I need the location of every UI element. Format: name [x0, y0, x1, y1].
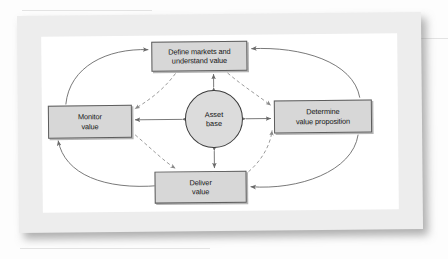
paper-sheet: Define markets and understand value Dete…: [17, 12, 423, 233]
dash-deliver-to-determine: [248, 131, 272, 172]
arc-monitor-to-define: [65, 50, 149, 105]
dash-monitor-to-deliver: [135, 134, 175, 168]
figure-area: Define markets and understand value Dete…: [41, 33, 399, 212]
dash-define-to-monitor: [135, 73, 176, 108]
node-deliver-value-label: Deliver value: [189, 178, 211, 196]
scanned-page-background: Define markets and understand value Dete…: [0, 0, 448, 259]
node-determine-value[interactable]: Determine value proposition: [274, 100, 372, 134]
arc-deliver-to-monitor: [58, 140, 158, 188]
node-asset-base-label: Asset base: [205, 110, 224, 128]
node-define-markets-label: Define markets and understand value: [168, 47, 230, 66]
node-determine-value-label: Determine value proposition: [296, 107, 350, 126]
scan-artifact-top: [22, 10, 152, 11]
node-define-markets[interactable]: Define markets and understand value: [151, 41, 247, 72]
node-monitor-value-label: Monitor value: [78, 113, 102, 131]
node-deliver-value[interactable]: Deliver value: [154, 171, 246, 204]
node-asset-base[interactable]: Asset base: [185, 90, 244, 149]
arc-determine-to-deliver: [250, 135, 358, 188]
scan-artifact-bottom: [20, 248, 210, 249]
node-monitor-value[interactable]: Monitor value: [48, 105, 132, 139]
arc-determine-to-define: [251, 47, 359, 98]
